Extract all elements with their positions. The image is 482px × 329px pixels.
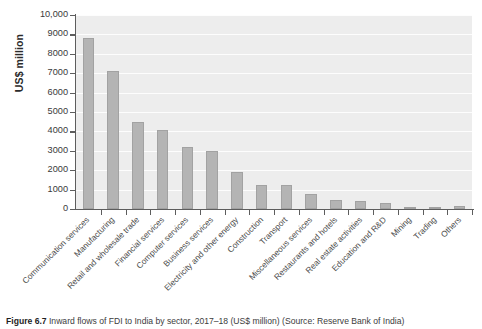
y-axis-tick: [70, 73, 75, 74]
x-axis-tick: [398, 210, 399, 215]
y-axis-tick: [70, 15, 75, 16]
y-axis-tick-label: 6000: [6, 88, 68, 97]
y-axis-tick: [70, 209, 75, 210]
bar: [330, 200, 341, 209]
bars-layer: [76, 15, 472, 209]
y-axis-tick-label-wrap: 3000: [0, 146, 68, 155]
bar: [157, 130, 168, 209]
y-axis-line: [75, 14, 76, 210]
y-axis-tick-label: 10,000: [6, 10, 68, 19]
y-axis-tick: [70, 34, 75, 35]
y-axis-tick: [70, 151, 75, 152]
x-axis-tick: [447, 210, 448, 215]
figure-caption-text: Inward flows of FDI to India by sector, …: [49, 316, 404, 326]
y-axis-tick-label: 3000: [6, 146, 68, 155]
y-axis-tick-label: 0: [6, 204, 68, 213]
x-axis-tick: [249, 210, 250, 215]
bar: [206, 151, 217, 209]
y-axis-tick-label: 2000: [6, 165, 68, 174]
bar: [107, 71, 118, 209]
x-axis-tick: [101, 210, 102, 215]
bar: [305, 194, 316, 209]
bar: [281, 185, 292, 209]
y-axis-tick-label-wrap: 1000: [0, 185, 68, 194]
y-axis-tick: [70, 190, 75, 191]
x-axis-tick: [175, 210, 176, 215]
y-axis-tick-label-wrap: 8000: [0, 49, 68, 58]
y-axis-tick-label: 7000: [6, 68, 68, 77]
x-axis-tick-label: Communication services: [0, 215, 91, 306]
y-axis-tick-label-wrap: 5000: [0, 107, 68, 116]
bar: [132, 122, 143, 209]
x-axis-tick: [274, 210, 275, 215]
figure-container: US$ million 0100020003000400050006000700…: [0, 0, 482, 329]
x-axis-tick: [423, 210, 424, 215]
y-axis-tick-label-wrap: 10,000: [0, 10, 68, 19]
y-axis-tick-label: 9000: [6, 29, 68, 38]
x-axis-tick: [225, 210, 226, 215]
x-axis-tick: [299, 210, 300, 215]
y-axis-tick-label: 4000: [6, 126, 68, 135]
bar: [182, 147, 193, 209]
y-axis-tick-label-wrap: 7000: [0, 68, 68, 77]
bar: [355, 201, 366, 209]
y-axis-tick-label: 8000: [6, 49, 68, 58]
x-axis-tick: [324, 210, 325, 215]
x-axis-tick: [348, 210, 349, 215]
y-axis-tick-label: 1000: [6, 185, 68, 194]
bar: [83, 38, 94, 209]
y-axis-tick-label-wrap: 0: [0, 204, 68, 213]
x-axis-tick: [200, 210, 201, 215]
plot-area: [76, 15, 472, 209]
y-axis-title: US$ million: [13, 13, 25, 113]
y-axis-tick-label-wrap: 2000: [0, 165, 68, 174]
figure-caption: Figure 6.7 Inward flows of FDI to India …: [6, 316, 480, 327]
figure-caption-label: Figure 6.7: [6, 316, 47, 326]
y-axis-tick-label-wrap: 9000: [0, 29, 68, 38]
y-axis-tick: [70, 131, 75, 132]
x-axis-tick: [472, 210, 473, 215]
y-axis-tick-label-wrap: 4000: [0, 126, 68, 135]
y-axis-tick: [70, 54, 75, 55]
y-axis-tick-label-wrap: 6000: [0, 88, 68, 97]
x-axis-line: [70, 209, 474, 210]
x-axis-tick: [150, 210, 151, 215]
y-axis-tick-label: 5000: [6, 107, 68, 116]
y-axis-tick: [70, 170, 75, 171]
y-axis-tick: [70, 93, 75, 94]
x-axis-tick: [373, 210, 374, 215]
bar: [256, 185, 267, 209]
x-axis-tick: [126, 210, 127, 215]
bar: [231, 172, 242, 209]
y-axis-tick: [70, 112, 75, 113]
